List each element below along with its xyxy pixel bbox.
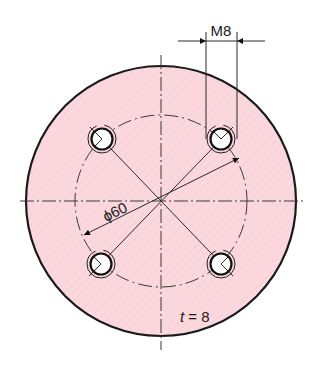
hole-bottom-left [87, 250, 115, 278]
hole-bottom-right [207, 250, 235, 278]
thickness-value: = 8 [184, 308, 209, 325]
flange-drawing: M8 ϕ60 t = 8 [0, 0, 321, 365]
thread-size-label: M8 [211, 22, 232, 39]
hole-top-left [88, 125, 116, 153]
hole-top-right [207, 125, 235, 153]
thickness-label: t = 8 [180, 308, 210, 325]
